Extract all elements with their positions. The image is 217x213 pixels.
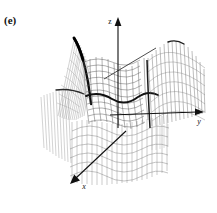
- panel-label: (e): [4, 14, 16, 26]
- z-axis-arrowhead: [115, 17, 122, 26]
- y-axis-label: y: [196, 117, 201, 126]
- mesh-central-u-lines: [84, 59, 145, 127]
- figure-panel: (e): [0, 0, 217, 213]
- valley-saddle-curve: [86, 93, 158, 103]
- x-axis-label: x: [81, 182, 86, 191]
- mesh-right-droplines: [152, 124, 168, 150]
- surface-plot-svg: z y x: [0, 0, 217, 213]
- z-axis-label: z: [108, 17, 112, 26]
- crest-ridge-highlight: [74, 38, 83, 60]
- mesh-left-dropline-fan: [41, 90, 71, 163]
- x-axis-line: [76, 131, 126, 178]
- mesh-lower-vertical-rulings: [72, 115, 167, 185]
- y-axis-arrowhead: [195, 108, 204, 115]
- mesh-lower-contour-field: [70, 126, 169, 181]
